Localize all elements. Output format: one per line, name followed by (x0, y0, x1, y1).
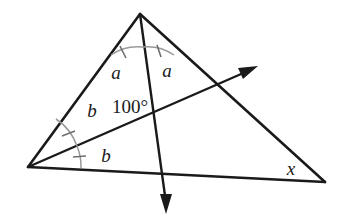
geometry-canvas: a a b b 100° x (0, 0, 343, 223)
right-edge (140, 14, 325, 182)
left-upper-angle-tick (62, 131, 75, 136)
angle-label-a-left: a (111, 62, 121, 83)
apex-right-angle-tick (157, 45, 161, 57)
angle-label-b-upper: b (87, 100, 97, 121)
angle-label-100-degrees: 100° (112, 96, 148, 117)
bottom-edge (28, 167, 325, 182)
angle-label-a-right: a (162, 60, 172, 81)
angle-label-x: x (286, 158, 296, 179)
geometry-figure: a a b b 100° x (0, 0, 343, 223)
left-lower-angle-tick (73, 156, 86, 157)
angle-label-b-lower: b (101, 145, 111, 166)
bisector-ray-up-right (28, 71, 248, 167)
up-right-arrow-head (238, 66, 258, 79)
down-arrow-head (160, 194, 172, 214)
left-edge (28, 14, 140, 167)
